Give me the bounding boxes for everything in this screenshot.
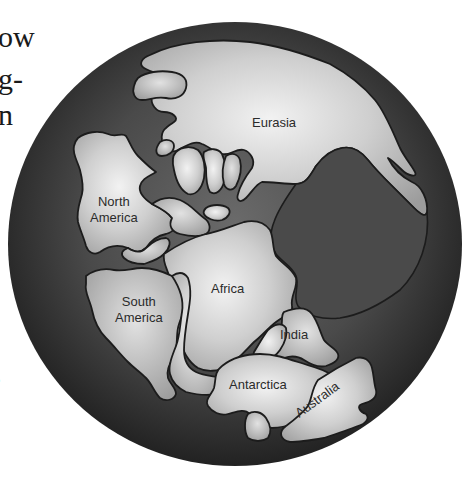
arctic-landmass bbox=[133, 71, 186, 100]
label-line: America bbox=[115, 310, 163, 326]
iberia-fragment bbox=[204, 205, 230, 221]
label-line: America bbox=[90, 210, 138, 226]
label-line: Antarctica bbox=[229, 377, 287, 392]
globe-illustration bbox=[0, 0, 463, 479]
label-antarctica: Antarctica bbox=[229, 377, 287, 393]
label-line: India bbox=[280, 327, 308, 342]
label-line: Africa bbox=[211, 281, 244, 296]
label-line: Eurasia bbox=[252, 115, 296, 130]
label-south-america: South America bbox=[115, 294, 163, 326]
pangaea-globe: Eurasia North America South America Afri… bbox=[0, 0, 463, 479]
label-north-america: North America bbox=[90, 194, 138, 226]
label-line: South bbox=[115, 294, 163, 310]
label-line: North bbox=[90, 194, 138, 210]
label-india: India bbox=[280, 327, 308, 343]
label-eurasia: Eurasia bbox=[252, 115, 296, 131]
label-africa: Africa bbox=[211, 281, 244, 297]
